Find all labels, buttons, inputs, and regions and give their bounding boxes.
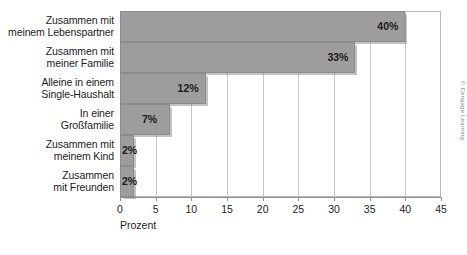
bar — [120, 42, 355, 73]
x-axis-tick-label: 5 — [136, 203, 176, 215]
bar-row: 12% — [120, 73, 441, 104]
bar-row: 2% — [120, 135, 441, 166]
category-label-line: meinem Lebenspartner — [0, 27, 114, 39]
x-axis-title: Prozent — [120, 219, 156, 231]
bar-row: 2% — [120, 166, 441, 197]
x-axis-tick-label: 40 — [385, 203, 425, 215]
category-label-line: Zusammen mit — [0, 46, 114, 58]
x-axis-tick-label: 15 — [207, 203, 247, 215]
x-axis-tick-label: 0 — [100, 203, 140, 215]
x-axis-tick — [370, 197, 371, 201]
bar-value-label: 7% — [142, 104, 157, 135]
category-axis-labels: Zusammen mit meinem Lebenspartner Zusamm… — [0, 11, 114, 197]
category-label-line: Single-Haushalt — [0, 89, 114, 101]
bar-value-label: 33% — [327, 42, 348, 73]
bar-value-label: 2% — [122, 166, 137, 197]
x-axis-tick-label: 10 — [171, 203, 211, 215]
x-axis-tick — [120, 197, 121, 201]
category-label: Zusammen mit Freunden — [0, 170, 114, 193]
x-axis-tick-label: 30 — [314, 203, 354, 215]
bar-chart: Zusammen mit meinem Lebenspartner Zusamm… — [0, 0, 467, 255]
x-axis-line — [120, 197, 441, 198]
category-label-line: Zusammen mit — [0, 139, 114, 151]
x-axis-tick — [156, 197, 157, 201]
bars-layer: 40%33%12%7%2%2% — [120, 11, 441, 197]
category-label: Zusammen mit meinem Kind — [0, 139, 114, 162]
category-label: Zusammen mit meinem Lebenspartner — [0, 15, 114, 38]
category-label-line: In einer — [0, 108, 114, 120]
category-label-line: Alleine in einem — [0, 77, 114, 89]
category-label-line: meiner Familie — [0, 58, 114, 70]
x-axis-tick-label: 25 — [278, 203, 318, 215]
x-axis-tick-label: 20 — [243, 203, 283, 215]
bar-row: 7% — [120, 104, 441, 135]
x-axis-tick — [263, 197, 264, 201]
category-label-line: Zusammen — [0, 170, 114, 182]
bar-row: 40% — [120, 11, 441, 42]
copyright-credit: © Cengage Learning — [460, 81, 466, 140]
x-axis-tick-label: 45 — [421, 203, 461, 215]
x-axis-tick — [227, 197, 228, 201]
bar-value-label: 2% — [122, 135, 137, 166]
x-axis-tick — [405, 197, 406, 201]
x-axis-tick — [334, 197, 335, 201]
category-label-line: mit Freunden — [0, 182, 114, 194]
category-label: In einer Großfamilie — [0, 108, 114, 131]
x-axis-tick — [441, 197, 442, 201]
bar-value-label: 12% — [178, 73, 199, 104]
bar — [120, 11, 405, 42]
category-label-line: meinem Kind — [0, 151, 114, 163]
category-label-line: Zusammen mit — [0, 15, 114, 27]
x-axis-tick — [298, 197, 299, 201]
category-label: Alleine in einem Single-Haushalt — [0, 77, 114, 100]
category-label-line: Großfamilie — [0, 120, 114, 132]
bar-row: 33% — [120, 42, 441, 73]
x-axis-tick-label: 35 — [350, 203, 390, 215]
x-axis-tick — [191, 197, 192, 201]
bar-value-label: 40% — [377, 11, 398, 42]
category-label: Zusammen mit meiner Familie — [0, 46, 114, 69]
